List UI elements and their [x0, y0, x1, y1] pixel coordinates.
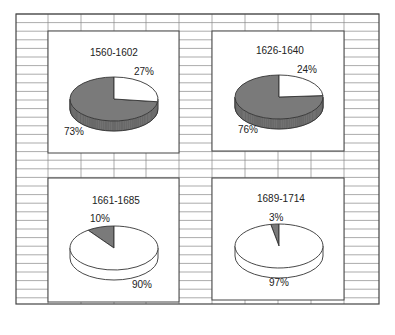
pie-label-light-3: 90% — [132, 279, 152, 290]
chart-figure: 1560-1602 27% 73% 1626-1640 24% 76% 1661… — [0, 0, 395, 335]
pie-charts — [0, 0, 395, 335]
pie-label-dark-4: 3% — [269, 212, 283, 223]
pie-label-light-2: 24% — [297, 64, 317, 75]
pie-title-3: 1661-1685 — [92, 195, 140, 206]
pie-label-light-1: 27% — [134, 66, 154, 77]
pie-label-dark-2: 76% — [238, 124, 258, 135]
pie-title-1: 1560-1602 — [90, 47, 138, 58]
pie-title-4: 1689-1714 — [257, 193, 305, 204]
pie-label-dark-3: 10% — [90, 213, 110, 224]
pie-label-light-4: 97% — [269, 277, 289, 288]
pie-label-dark-1: 73% — [64, 126, 84, 137]
pie-title-2: 1626-1640 — [256, 45, 304, 56]
